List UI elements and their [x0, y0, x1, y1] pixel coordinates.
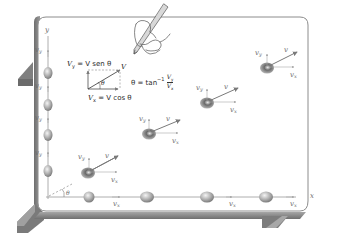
vy-label-col-2: vy: [35, 83, 42, 90]
v-label-t3: v: [224, 84, 228, 91]
y-axis-label: y: [45, 27, 49, 34]
v-label-t2: v: [166, 116, 170, 123]
triangle-theta-label: θ: [101, 80, 105, 86]
vy-label-col-4: vy: [35, 150, 42, 157]
ball-y3: [44, 129, 53, 141]
vx-label-t1: vx: [111, 177, 118, 184]
vx-label-row-3: vx: [290, 201, 297, 208]
vy-label-t1: vy: [78, 154, 85, 161]
vy-label-col-1: vy: [35, 47, 42, 54]
ball-x4: [259, 192, 273, 203]
projectile-whiteboard-figure: Vy = V sen θ V θ Vx = V cos θ θ = tan−1 …: [0, 0, 345, 249]
ball-x3: [200, 192, 214, 203]
vx-label-row-2: vx: [229, 201, 236, 208]
ball-y1: [44, 67, 53, 79]
origin-theta-label: θ: [66, 190, 70, 196]
vx-label-t2: vx: [172, 138, 179, 145]
ball-x1: [84, 192, 95, 203]
ball-y4: [44, 165, 53, 177]
vy-label-t4: vy: [255, 50, 262, 57]
vy-label-t3: vy: [196, 85, 203, 92]
formula-theta: θ = tan−1 Vy Vx: [131, 74, 173, 91]
v-label-t1: v: [105, 153, 109, 160]
v-label-t4: v: [284, 47, 288, 54]
ball-y2: [44, 99, 53, 111]
formula-vy: Vy = V sen θ: [67, 61, 111, 69]
vy-label-t2: vy: [139, 116, 146, 123]
vy-label-col-3: vy: [35, 115, 42, 122]
vx-label-row-1: vx: [113, 201, 120, 208]
vx-label-t3: vx: [230, 107, 237, 114]
x-axis-label: x: [310, 193, 314, 200]
triangle-v-label: V: [121, 64, 126, 71]
formula-vx: Vx = V cos θ: [88, 95, 132, 103]
vx-label-t4: vx: [290, 72, 297, 79]
ball-x2: [140, 192, 154, 203]
